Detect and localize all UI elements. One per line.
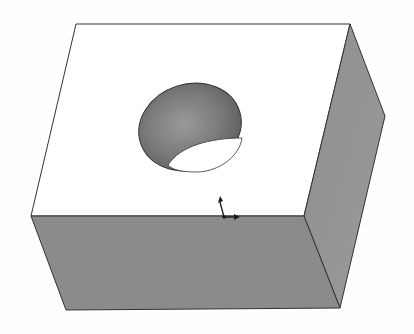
front-face[interactable] [31, 216, 340, 310]
model-canvas[interactable] [0, 0, 414, 334]
triad-origin [222, 215, 226, 219]
3d-viewport[interactable] [0, 0, 414, 334]
